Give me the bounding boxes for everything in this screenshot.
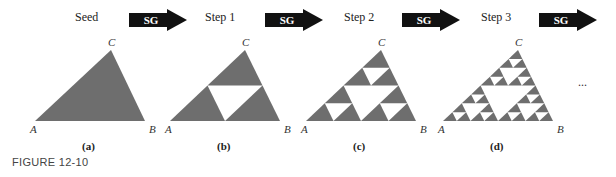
filled-triangle bbox=[509, 50, 523, 59]
filled-triangle bbox=[389, 103, 417, 121]
triangle-stage-1 bbox=[170, 50, 280, 121]
ellipsis: ... bbox=[578, 75, 587, 90]
filled-triangle bbox=[452, 103, 466, 112]
filled-triangle bbox=[513, 59, 527, 68]
sg-arrow-icon: SG bbox=[539, 9, 597, 31]
stage-caption: (d) bbox=[490, 140, 503, 152]
triangle-stage-2 bbox=[306, 50, 416, 121]
filled-triangle bbox=[494, 77, 508, 86]
sg-arrow-icon: SG bbox=[265, 9, 323, 31]
vertex-label-a: A bbox=[165, 123, 172, 135]
filled-triangle bbox=[208, 50, 263, 86]
filled-triangle bbox=[539, 112, 553, 121]
filled-triangle bbox=[476, 94, 490, 103]
filled-triangle bbox=[517, 68, 531, 77]
arrow-label: SG bbox=[539, 13, 583, 27]
vertex-label-c: C bbox=[378, 36, 385, 48]
stage-title: Seed bbox=[75, 10, 98, 25]
filled-triangle bbox=[443, 112, 457, 121]
vertex-label-a: A bbox=[438, 123, 445, 135]
filled-triangle bbox=[462, 94, 476, 103]
filled-triangle bbox=[471, 112, 485, 121]
filled-triangle bbox=[526, 86, 540, 95]
filled-triangle bbox=[361, 103, 389, 121]
filled-triangle bbox=[484, 112, 498, 121]
arrow-label: SG bbox=[129, 13, 173, 27]
arrow-label: SG bbox=[265, 13, 309, 27]
stage-title: Step 1 bbox=[205, 10, 235, 25]
vertex-label-c: C bbox=[515, 36, 522, 48]
filled-triangle bbox=[490, 68, 504, 77]
vertex-label-c: C bbox=[108, 36, 115, 48]
vertex-label-a: A bbox=[30, 123, 37, 135]
stage-title: Step 3 bbox=[481, 10, 511, 25]
filled-triangle bbox=[517, 94, 531, 103]
filled-triangle bbox=[170, 86, 225, 122]
filled-triangle bbox=[508, 77, 522, 86]
filled-triangle bbox=[306, 103, 334, 121]
filled-triangle bbox=[522, 77, 536, 86]
filled-triangle bbox=[457, 112, 471, 121]
filled-triangle bbox=[325, 86, 353, 104]
filled-triangle bbox=[380, 86, 408, 104]
triangle-stage-0 bbox=[35, 50, 145, 121]
triangle-stage-3 bbox=[443, 50, 553, 121]
filled-triangle bbox=[481, 77, 495, 86]
figure-label: FIGURE 12-10 bbox=[12, 156, 88, 168]
filled-triangle bbox=[535, 103, 549, 112]
sg-arrow-icon: SG bbox=[402, 9, 460, 31]
filled-triangle bbox=[512, 112, 526, 121]
vertex-label-b: B bbox=[284, 123, 291, 135]
filled-triangle bbox=[531, 94, 545, 103]
vertex-label-c: C bbox=[242, 36, 249, 48]
vertex-label-a: A bbox=[301, 123, 308, 135]
filled-triangle bbox=[480, 103, 494, 112]
stage-title: Step 2 bbox=[344, 10, 374, 25]
stage-caption: (b) bbox=[217, 140, 230, 152]
vertex-label-b: B bbox=[420, 123, 427, 135]
filled-triangle bbox=[499, 59, 513, 68]
filled-triangle bbox=[225, 86, 280, 122]
filled-triangle bbox=[344, 68, 372, 86]
filled-triangle bbox=[498, 112, 512, 121]
filled-triangle bbox=[362, 50, 390, 68]
stage-caption: (a) bbox=[82, 140, 95, 152]
filled-triangle bbox=[471, 86, 485, 95]
arrow-label: SG bbox=[402, 13, 446, 27]
sg-arrow-icon: SG bbox=[129, 9, 187, 31]
vertex-label-b: B bbox=[557, 123, 564, 135]
vertex-label-b: B bbox=[149, 123, 156, 135]
filled-triangle bbox=[526, 112, 540, 121]
filled-triangle bbox=[507, 103, 521, 112]
filled-triangle bbox=[371, 68, 399, 86]
filled-triangle bbox=[35, 50, 145, 121]
stage-caption: (c) bbox=[353, 140, 365, 152]
filled-triangle bbox=[334, 103, 362, 121]
